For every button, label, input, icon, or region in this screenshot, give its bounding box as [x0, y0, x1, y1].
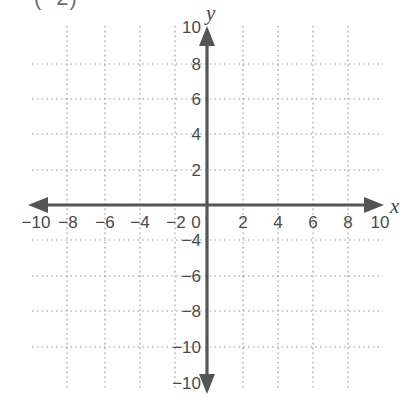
y-axis-bottom-arrowhead	[199, 374, 215, 394]
y-tick--6: −8	[182, 303, 201, 320]
x-tick--8: −8	[58, 214, 77, 231]
x-tick--4: −4	[130, 214, 149, 231]
y-tick--8: −10	[172, 339, 201, 356]
x-tick--10: −10	[22, 214, 51, 231]
x-axis-label: x	[390, 196, 399, 217]
x-axis-right-arrowhead	[364, 197, 384, 213]
y-tick-4: 4	[192, 126, 201, 143]
coordinate-plane-figure: (−2)	[0, 0, 410, 411]
x-tick--6: −6	[95, 214, 114, 231]
x-tick-2: 2	[238, 214, 247, 231]
y-axis	[199, 26, 215, 394]
coordinate-grid-svg	[0, 0, 410, 411]
y-tick--2: −4	[182, 232, 201, 249]
x-tick-10: 10	[371, 214, 390, 231]
x-tick-4: 4	[273, 214, 282, 231]
x-tick-8: 8	[343, 214, 352, 231]
y-axis-label: y	[206, 3, 215, 24]
y-tick-2: 2	[192, 162, 201, 179]
x-tick--2: −2	[166, 214, 185, 231]
y-axis-top-arrowhead	[199, 26, 215, 46]
y-tick-10: 10	[182, 19, 201, 36]
y-tick--10: −10	[172, 375, 201, 392]
x-tick-6: 6	[308, 214, 317, 231]
y-tick-6: 6	[192, 91, 201, 108]
y-tick--4: −6	[182, 268, 201, 285]
x-axis-left-arrowhead	[28, 197, 48, 213]
y-tick-8: 8	[192, 56, 201, 73]
x-tick-origin: 0	[191, 214, 200, 231]
